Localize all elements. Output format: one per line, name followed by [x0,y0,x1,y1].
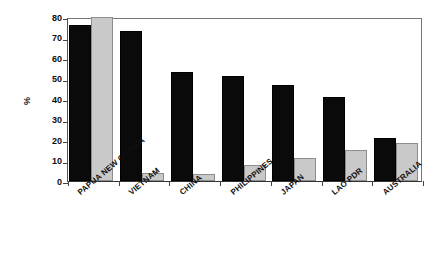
y-tick-mark [63,101,68,102]
y-tick-mark [63,60,68,61]
y-tick-mark [63,122,68,123]
x-tick-mark [423,181,424,186]
y-tick-label: 10 [40,157,62,166]
y-tick-label: 80 [40,14,62,23]
x-tick-mark [322,181,323,186]
bar-series-b-0 [91,17,113,181]
bar-series-a-6 [374,138,396,181]
x-tick-mark [169,181,170,186]
y-axis-tick-labels: 01020304050607080 [38,0,62,270]
y-tick-label: 20 [40,137,62,146]
y-axis-label: % [14,88,40,114]
bar-series-a-3 [222,76,244,181]
x-tick-mark [372,181,373,186]
y-tick-mark [63,19,68,20]
bar-series-a-2 [171,72,193,181]
y-tick-label: 70 [40,34,62,43]
bar-series-a-0 [69,25,91,181]
y-tick-label: 30 [40,116,62,125]
bar-series-a-5 [323,97,345,181]
x-tick-mark [119,181,120,186]
y-tick-mark [63,163,68,164]
y-tick-label: 0 [40,178,62,187]
x-tick-mark [271,181,272,186]
bar-series-a-4 [272,85,294,181]
x-tick-mark [220,181,221,186]
y-tick-label: 60 [40,55,62,64]
y-tick-mark [63,81,68,82]
y-tick-label: 50 [40,75,62,84]
x-tick-mark [68,181,69,186]
y-tick-mark [63,142,68,143]
y-tick-mark [63,40,68,41]
y-tick-label: 40 [40,96,62,105]
bar-chart: % 01020304050607080 PAPUA NEW GUINEAVIET… [0,0,441,270]
